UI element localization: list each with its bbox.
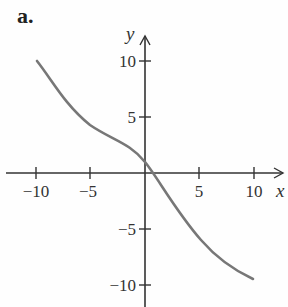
y-tick-label: −10 xyxy=(109,276,136,295)
y-tick-label: −5 xyxy=(118,220,136,239)
x-tick-label: 10 xyxy=(246,182,263,201)
x-tick-label: −5 xyxy=(79,182,97,201)
chart-panel: a. −10 −5 5 10 10 5 −5 −10 x y xyxy=(0,0,288,307)
y-tick-label: 10 xyxy=(119,52,136,71)
x-axis-label: x xyxy=(275,180,285,201)
chart-svg: −10 −5 5 10 10 5 −5 −10 x y xyxy=(0,0,288,307)
y-tick-label: 5 xyxy=(128,108,137,127)
x-tick-label: 5 xyxy=(195,182,204,201)
x-tick-label: −10 xyxy=(23,182,50,201)
y-axis-label: y xyxy=(124,23,135,44)
